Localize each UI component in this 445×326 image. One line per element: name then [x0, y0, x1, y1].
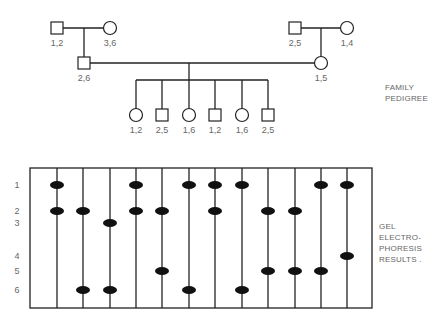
band-6	[235, 286, 249, 294]
genotype-label: 2,5	[156, 125, 169, 135]
male-square-icon	[78, 57, 90, 69]
band-5	[314, 267, 328, 275]
band-1	[314, 181, 328, 189]
label-line: PHORESIS	[379, 243, 422, 254]
band-5	[261, 267, 275, 275]
male-square-icon	[289, 22, 301, 34]
gel-lane-3	[103, 168, 117, 308]
gel-lane-9	[261, 168, 275, 308]
label-line: RESULTS .	[379, 254, 422, 265]
band-6	[76, 286, 90, 294]
genotype-label: 1,2	[130, 125, 143, 135]
label-line: ELECTRO-	[379, 232, 422, 243]
gel-lane-7	[208, 168, 222, 308]
individual-child-6: 2,5	[262, 109, 275, 135]
gel-lane-5	[155, 168, 169, 308]
male-square-icon	[51, 22, 63, 34]
pedigree-individuals: 1,23,62,51,42,61,51,22,51,61,21,62,5	[51, 22, 354, 136]
band-2	[261, 207, 275, 215]
genotype-label: 1,2	[209, 125, 222, 135]
band-1	[182, 181, 196, 189]
band-5	[288, 267, 302, 275]
gel-lane-8	[235, 168, 249, 308]
male-square-icon	[209, 109, 221, 121]
genotype-label: 1,6	[183, 125, 196, 135]
individual-mother: 1,5	[315, 57, 328, 84]
gel-lane-4	[129, 168, 143, 308]
band-row-label: 4	[14, 251, 19, 261]
band-6	[103, 286, 117, 294]
female-circle-icon	[236, 109, 249, 122]
band-4	[340, 252, 354, 260]
individual-child-4: 1,2	[209, 109, 222, 135]
gel-lane-6	[182, 168, 196, 308]
genotype-label: 2,5	[262, 125, 275, 135]
gel-electrophoresis: 123456	[14, 168, 372, 308]
male-square-icon	[262, 109, 274, 121]
genotype-label: 1,4	[341, 38, 354, 48]
individual-child-3: 1,6	[183, 109, 196, 136]
female-circle-icon	[315, 57, 328, 70]
individual-child-1: 1,2	[130, 109, 143, 136]
female-circle-icon	[104, 22, 117, 35]
band-2	[76, 207, 90, 215]
genotype-label: 3,6	[104, 38, 117, 48]
band-1	[208, 181, 222, 189]
band-1	[235, 181, 249, 189]
individual-maternal-grandmother: 1,4	[341, 22, 354, 49]
band-1	[50, 181, 64, 189]
individual-paternal-grandfather: 1,2	[51, 22, 64, 48]
male-square-icon	[156, 109, 168, 121]
label-line: GEL	[379, 221, 422, 232]
individual-child-5: 1,6	[236, 109, 249, 136]
genotype-label: 2,6	[78, 73, 91, 83]
gel-electrophoresis-label: GEL ELECTRO- PHORESIS RESULTS .	[379, 221, 422, 265]
band-row-label: 3	[14, 218, 19, 228]
gel-lane-1	[50, 168, 64, 308]
band-2	[129, 207, 143, 215]
band-2	[208, 207, 222, 215]
gel-lane-10	[288, 168, 302, 308]
individual-child-2: 2,5	[156, 109, 169, 135]
band-2	[155, 207, 169, 215]
individual-paternal-grandmother: 3,6	[104, 22, 117, 49]
band-row-label: 5	[14, 266, 19, 276]
family-pedigree-label: FAMILY PEDIGREE	[385, 82, 428, 104]
female-circle-icon	[183, 109, 196, 122]
band-6	[182, 286, 196, 294]
band-row-label: 2	[14, 206, 19, 216]
band-1	[129, 181, 143, 189]
gel-lane-11	[314, 168, 328, 308]
band-5	[155, 267, 169, 275]
band-2	[50, 207, 64, 215]
genotype-label: 1,5	[315, 73, 328, 83]
band-1	[340, 181, 354, 189]
female-circle-icon	[341, 22, 354, 35]
band-row-label: 6	[14, 285, 19, 295]
genotype-label: 1,2	[51, 38, 64, 48]
gel-lane-2	[76, 168, 90, 308]
individual-maternal-grandfather: 2,5	[289, 22, 302, 48]
genotype-label: 2,5	[289, 38, 302, 48]
band-row-label: 1	[14, 180, 19, 190]
genotype-label: 1,6	[236, 125, 249, 135]
label-line: FAMILY	[385, 82, 428, 93]
female-circle-icon	[130, 109, 143, 122]
label-line: PEDIGREE	[385, 93, 428, 104]
pedigree-and-gel-diagram: 1,23,62,51,42,61,51,22,51,61,21,62,5 123…	[0, 0, 445, 326]
individual-father: 2,6	[78, 57, 91, 83]
band-3	[103, 219, 117, 227]
gel-lane-12	[340, 168, 354, 308]
band-2	[288, 207, 302, 215]
